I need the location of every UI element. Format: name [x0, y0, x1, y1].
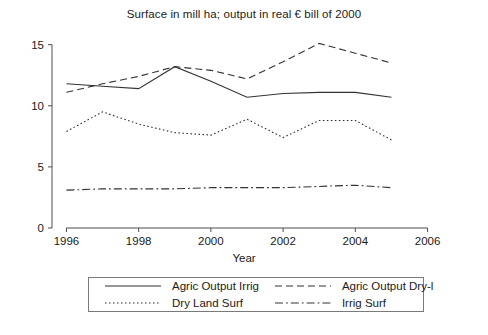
legend-line-sample: [103, 281, 163, 291]
series-line-2: [66, 112, 391, 140]
x-tick-label: 2006: [415, 235, 441, 247]
x-axis-title: Year: [232, 252, 255, 264]
series-line-3: [66, 185, 391, 190]
series-line-0: [66, 67, 391, 98]
legend-entry: Agric Output Irrig: [89, 280, 259, 292]
legend-entry: Agric Output Dry-l: [259, 280, 433, 292]
y-tick-label: 10: [31, 100, 44, 112]
legend-label: Agric Output Dry-l: [342, 280, 433, 292]
x-tick-label: 2002: [270, 235, 296, 247]
data-series-group: [66, 43, 391, 190]
legend-entry: Irrig Surf: [259, 297, 433, 309]
x-tick-label: 1998: [126, 235, 152, 247]
legend-line-sample: [273, 281, 333, 291]
x-axis: 199619982000200220042006: [54, 228, 441, 247]
y-tick-label: 5: [38, 161, 44, 173]
legend-label: Irrig Surf: [342, 297, 386, 309]
y-axis: 051015: [31, 39, 52, 234]
x-tick-label: 2004: [343, 235, 369, 247]
x-tick-label: 1996: [54, 235, 80, 247]
legend-entry: Dry Land Surf: [89, 297, 259, 309]
legend-label: Dry Land Surf: [172, 297, 243, 309]
y-tick-label: 15: [31, 39, 44, 51]
legend-line-sample: [273, 298, 333, 308]
x-tick-label: 2000: [198, 235, 224, 247]
y-tick-label: 0: [38, 222, 44, 234]
legend-label: Agric Output Irrig: [172, 280, 259, 292]
legend-line-sample: [103, 298, 163, 308]
series-line-1: [66, 43, 391, 92]
chart-legend: Agric Output IrrigAgric Output Dry-lDry …: [88, 277, 424, 312]
chart-figure: Surface in mill ha; output in real € bil…: [0, 0, 488, 335]
